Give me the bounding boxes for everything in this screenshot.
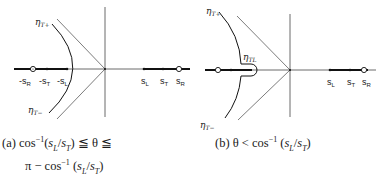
- label-sL-b: sL: [327, 77, 336, 88]
- label-sL-a: sL: [141, 76, 150, 87]
- panel-a: -sR -sT -sL sL sT sR ηT+ ηT−: [14, 7, 190, 119]
- point-neg-sT: [46, 68, 49, 71]
- caption-a-relation: ≦ θ ≦: [75, 136, 112, 150]
- caption-b-sup: −1: [269, 135, 278, 144]
- label-sR-b: sR: [362, 77, 372, 88]
- contour-eta-b: [219, 12, 257, 118]
- point-sT-b: [349, 69, 352, 72]
- caption-a-line1: (a) cos−1(sL/sT) ≦ θ ≦: [2, 133, 112, 156]
- point-neg-sR-b: [215, 67, 220, 72]
- origin-b: [289, 69, 291, 71]
- point-sL-b: [329, 69, 332, 72]
- asymptote-lower-b: [238, 70, 290, 120]
- point-sR-b: [361, 67, 366, 72]
- caption-a-line2: π − cos−1 (sL/sT): [2, 156, 112, 175]
- point-sT-a: [162, 68, 165, 71]
- asymptote-upper-a: [57, 19, 105, 69]
- label-eta-T-plus-a: ηT+: [35, 17, 49, 28]
- point-sL-a: [143, 68, 146, 71]
- label-eta-T-minus-a: ηT−: [28, 105, 42, 116]
- point-neg-sL: [66, 68, 69, 71]
- label-sR-a: sR: [176, 76, 186, 87]
- point-neg-sT-b: [230, 69, 233, 72]
- caption-a: (a) cos−1(sL/sT) ≦ θ ≦ π − cos−1 (sL/sT): [2, 133, 112, 175]
- label-sT-a: sT: [160, 76, 169, 87]
- label-sT-b: sT: [347, 77, 356, 88]
- caption-a-sup2: −1: [61, 158, 70, 167]
- caption-b-theta: θ < cos: [233, 136, 269, 150]
- caption-a-cos: cos: [19, 136, 36, 150]
- caption-b-prefix: (b): [215, 136, 230, 150]
- label-eta-TL-b: ηTL: [243, 52, 256, 63]
- label-neg-sR: -sR: [19, 76, 32, 87]
- caption-a-sup: −1: [36, 135, 45, 144]
- label-neg-sT: -sT: [39, 76, 51, 87]
- caption-b: (b) θ < cos−1 (sL/sT): [215, 133, 311, 156]
- point-sR-a: [176, 66, 181, 71]
- label-eta-T-minus-b: ηT−: [200, 120, 214, 131]
- point-neg-sR-center: [32, 68, 33, 69]
- origin-a: [104, 68, 106, 70]
- caption-a-prefix: (a): [2, 136, 16, 150]
- label-eta-T-plus-b: ηT+: [206, 6, 220, 17]
- caption-a-pi: π − cos: [25, 159, 61, 173]
- label-neg-sL: -sL: [57, 76, 69, 87]
- panel-b: sL sT sR ηT+ ηTL ηT−: [200, 6, 376, 131]
